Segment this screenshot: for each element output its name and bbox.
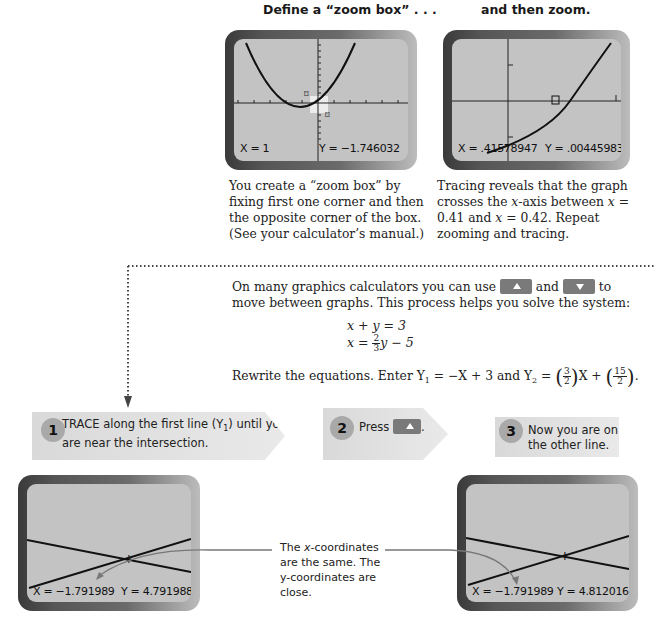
step-1-text: TRACE along the first line (Y1) until yo… [62, 417, 287, 451]
y-readout: Y = 4.8120166 [557, 585, 629, 598]
step-2-banner: 2 Press . [323, 408, 448, 460]
caption-line: fixing first one corner and then [229, 194, 434, 210]
coordinates-callout: The x-coordinates are the same. The y-co… [280, 540, 390, 600]
caption-line: the opposite corner of the box. [229, 210, 434, 226]
x-readout: X = .41578947 [458, 142, 537, 155]
x-readout: X = −1.791989 [472, 585, 554, 598]
step-3-text: Now you are onthe other line. [528, 423, 618, 453]
x-readout: X = −1.791989 [33, 585, 115, 598]
caption-line: 0.41 and x = 0.42. Repeat [437, 210, 652, 226]
trace-cursor-icon: ⫩ [562, 551, 568, 562]
step-1-banner: 1 TRACE along the first line (Y1) until … [32, 412, 285, 460]
y-readout: Y = 4.7919889 [121, 585, 191, 598]
tracing-caption: Tracing reveals that the graph crosses t… [437, 178, 652, 242]
step-3-banner: 3 Now you are onthe other line. [495, 417, 619, 457]
y-readout: Y = .00445983 [545, 142, 621, 155]
caption-line: zooming and tracing. [437, 226, 652, 242]
parabola-curve [246, 43, 355, 107]
callout-line: are the same. The [280, 555, 390, 570]
step-2-text: Press . [359, 419, 425, 435]
line-y1 [27, 540, 191, 572]
calculator-screen-zoomed: X = .41578947 Y = .00445983 [443, 30, 630, 170]
zoom-box-caption: You create a “zoom box” by fixing first … [229, 178, 434, 242]
caption-line: crosses the x-axis between x = [437, 194, 652, 210]
arrow-down-icon [124, 396, 132, 408]
x-readout: X = 1 [240, 142, 269, 155]
intro-line-1: On many graphics calculators you can use… [232, 279, 652, 295]
trace-cursor-icon: ⫩ [126, 554, 132, 565]
step-2-number: 2 [330, 416, 354, 440]
zoom-corner-2-icon: ⌑ [325, 110, 330, 120]
y-readout: Y = −1.746032 [319, 142, 400, 155]
callout-line: y-coordinates are [280, 570, 390, 585]
line-y2 [29, 539, 191, 588]
intro-line-2: move between graphs. This process helps … [232, 295, 652, 311]
zoom-box-heading: Define a “zoom box” . . . [263, 2, 437, 17]
step-3-number: 3 [499, 419, 523, 443]
rewrite-equations: Rewrite the equations. Enter Y1 = −X + 3… [232, 367, 639, 389]
caption-line: You create a “zoom box” by [229, 178, 434, 194]
intro-paragraph: On many graphics calculators you can use… [232, 279, 652, 311]
function-curve [487, 43, 611, 153]
trace-cursor-icon [552, 96, 559, 104]
calculator-screen-line-2: ⫩ X = −1.791989 Y = 4.8120166 [457, 475, 638, 611]
then-zoom-heading: and then zoom. [481, 2, 590, 17]
up-arrow-key-icon [393, 419, 421, 434]
down-arrow-key-icon [563, 279, 595, 294]
equation-1: x + y = 3 [347, 318, 406, 333]
calculator-screen-zoom-box: ⌑ ⌑ X = 1 Y = −1.746032 [225, 30, 417, 170]
up-arrow-key-icon [500, 279, 532, 294]
equation-2: x = 23y − 5 [347, 334, 414, 353]
calculator-screen-line-1: ⫩ X = −1.791989 Y = 4.7919889 [18, 475, 200, 611]
zoom-corner-1-icon: ⌑ [304, 89, 309, 99]
callout-line: close. [280, 585, 390, 600]
caption-line: (See your calculator’s manual.) [229, 226, 434, 242]
callout-line: The x-coordinates [280, 540, 390, 555]
caption-line: Tracing reveals that the graph [437, 178, 652, 194]
